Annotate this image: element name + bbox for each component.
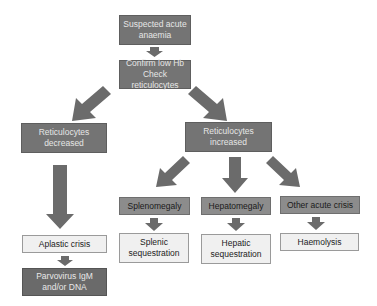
node-parvovirus: Parvovirus IgM and/or DNA [22, 268, 107, 296]
node-label: Suspected acute anaemia [120, 19, 190, 41]
node-label: Other acute crisis [287, 200, 353, 211]
node-splenomegaly: Splenomegaly [119, 197, 190, 215]
arrow-down-icon [307, 217, 325, 230]
node-label-line2: Check reticulocytes [120, 69, 190, 91]
node-hepatomegaly: Hepatomegaly [201, 197, 271, 215]
node-label-line1: Confirm low Hb [126, 58, 184, 69]
node-label-line1: Reticulocytes [203, 126, 254, 137]
node-haemolysis: Haemolysis [280, 233, 359, 251]
node-label-line1: Splenic [140, 237, 168, 248]
node-aplastic-crisis: Aplastic crisis [22, 235, 107, 253]
node-label: Splenomegaly [128, 201, 182, 212]
node-other-acute-crisis: Other acute crisis [280, 196, 360, 214]
node-label-line2: and/or DNA [42, 282, 86, 293]
node-label: Hepatomegaly [209, 201, 264, 212]
node-label: Aplastic crisis [39, 239, 90, 250]
node-suspected-acute-anaemia: Suspected acute anaemia [119, 15, 191, 45]
arrow-down-right-icon [266, 156, 300, 187]
node-label-line2: decreased [44, 138, 84, 149]
node-hepatic-sequestration: Hepatic sequestration [201, 234, 271, 264]
node-label-line1: Parvovirus IgM [36, 271, 93, 282]
arrow-down-icon [227, 218, 245, 231]
node-label: Haemolysis [298, 237, 342, 248]
arrow-down-left-icon [156, 156, 190, 187]
arrow-down-right-icon [188, 86, 227, 121]
node-reticulocytes-decreased: Reticulocytes decreased [21, 123, 107, 153]
node-splenic-sequestration: Splenic sequestration [119, 233, 189, 263]
arrow-down-icon [146, 47, 163, 57]
arrow-down-icon [57, 256, 73, 266]
node-confirm-low-hb: Confirm low Hb Check reticulocytes [119, 60, 191, 89]
node-label-line1: Hepatic [222, 238, 251, 249]
arrow-down-icon [222, 157, 248, 193]
node-label-line2: increased [210, 137, 247, 148]
node-reticulocytes-increased: Reticulocytes increased [185, 122, 272, 152]
node-label-line1: Reticulocytes [39, 127, 90, 138]
arrow-down-left-icon [72, 86, 111, 121]
arrow-down-icon [46, 165, 74, 229]
node-label-line2: sequestration [128, 248, 179, 259]
arrow-down-icon [145, 218, 163, 231]
node-label-line2: sequestration [210, 249, 261, 260]
